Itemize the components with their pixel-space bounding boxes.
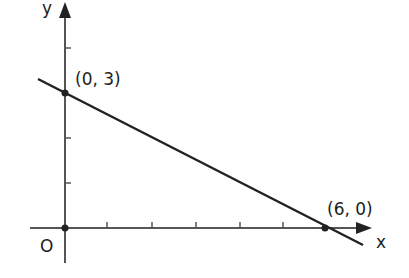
y-axis-arrow-icon bbox=[59, 2, 71, 18]
origin-point bbox=[62, 225, 69, 232]
point-label-x-intercept: (6, 0) bbox=[327, 199, 373, 219]
coordinate-plane: y x O (0, 3) (6, 0) bbox=[0, 0, 409, 278]
origin-label: O bbox=[40, 236, 53, 256]
point-y-intercept bbox=[62, 90, 69, 97]
x-axis-arrow-icon bbox=[356, 222, 372, 234]
graph-line bbox=[38, 79, 363, 245]
point-label-y-intercept: (0, 3) bbox=[75, 69, 121, 89]
point-x-intercept bbox=[322, 225, 329, 232]
y-axis-label: y bbox=[42, 0, 52, 18]
x-axis-label: x bbox=[376, 232, 386, 252]
